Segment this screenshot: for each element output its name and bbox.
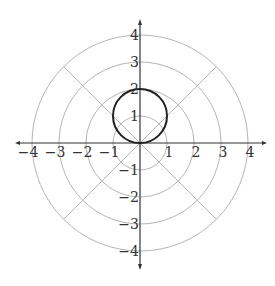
x-tick-label: 3 xyxy=(219,144,228,160)
y-tick-label: −4 xyxy=(118,243,139,259)
y-tick-label: −3 xyxy=(118,216,139,232)
y-axis-bottom-arrow-icon xyxy=(138,264,142,270)
polar-plot: −4−3−2−11234 4321−1−2−3−4 xyxy=(0,0,275,286)
y-tick-label: −2 xyxy=(118,189,139,205)
x-tick-label: 4 xyxy=(246,144,255,160)
x-axis-right-arrow-icon xyxy=(262,141,267,145)
y-axis-top-arrow-icon xyxy=(138,19,142,25)
x-tick-label: 2 xyxy=(192,144,201,160)
y-tick-label: 4 xyxy=(130,27,139,43)
y-tick-label: −1 xyxy=(118,162,139,178)
x-tick-label: −2 xyxy=(72,144,93,160)
x-tick-label: 1 xyxy=(165,144,174,160)
x-tick-label: −3 xyxy=(45,144,66,160)
y-tick-label: 3 xyxy=(130,54,139,70)
y-tick-label: 2 xyxy=(130,81,139,97)
y-tick-label: 1 xyxy=(130,108,139,124)
x-tick-label: −1 xyxy=(99,144,120,160)
x-tick-label: −4 xyxy=(18,144,39,160)
